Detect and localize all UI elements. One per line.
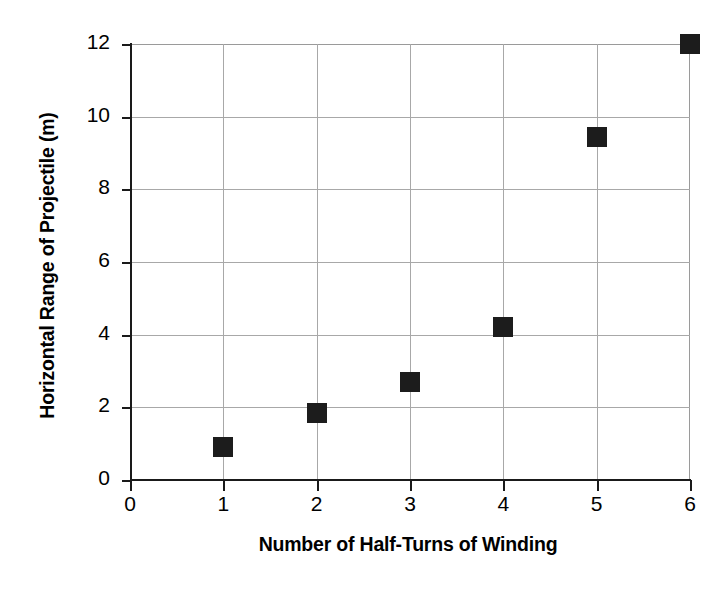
y-tick-mark [122,44,131,46]
gridline-vertical [410,44,411,480]
data-point-marker [587,127,607,147]
y-tick-label: 8 [64,175,110,199]
data-point-marker [400,372,420,392]
y-tick-mark [122,335,131,337]
gridline-vertical [597,44,598,480]
scatter-chart-figure: Horizontal Range of Projectile (m) Numbe… [0,0,727,589]
x-tick-label: 3 [390,492,430,516]
x-tick-mark [690,480,692,491]
x-tick-label: 0 [110,492,150,516]
y-tick-label: 10 [64,103,110,127]
x-tick-label: 2 [297,492,337,516]
y-tick-mark [122,407,131,409]
data-point-marker [680,34,700,54]
y-tick-label: 6 [64,248,110,272]
x-tick-label: 1 [203,492,243,516]
gridline-vertical [223,44,224,480]
x-tick-mark [317,480,319,491]
x-tick-mark [597,480,599,491]
x-tick-mark [410,480,412,491]
data-point-marker [307,403,327,423]
y-tick-label: 4 [64,321,110,345]
x-tick-label: 6 [670,492,710,516]
y-tick-mark [122,189,131,191]
gridline-vertical [503,44,504,480]
plot-area [130,44,690,480]
data-point-marker [493,317,513,337]
y-axis-title: Horizontal Range of Projectile (m) [36,51,59,481]
x-tick-mark [223,480,225,491]
x-tick-label: 4 [483,492,523,516]
y-tick-mark [122,262,131,264]
x-axis-title: Number of Half-Turns of Winding [118,533,698,556]
y-tick-label: 12 [64,30,110,54]
x-tick-mark [130,480,132,491]
x-tick-mark [503,480,505,491]
y-tick-label: 0 [64,466,110,490]
y-tick-label: 2 [64,393,110,417]
x-tick-label: 5 [577,492,617,516]
data-point-marker [213,437,233,457]
y-tick-mark [122,117,131,119]
